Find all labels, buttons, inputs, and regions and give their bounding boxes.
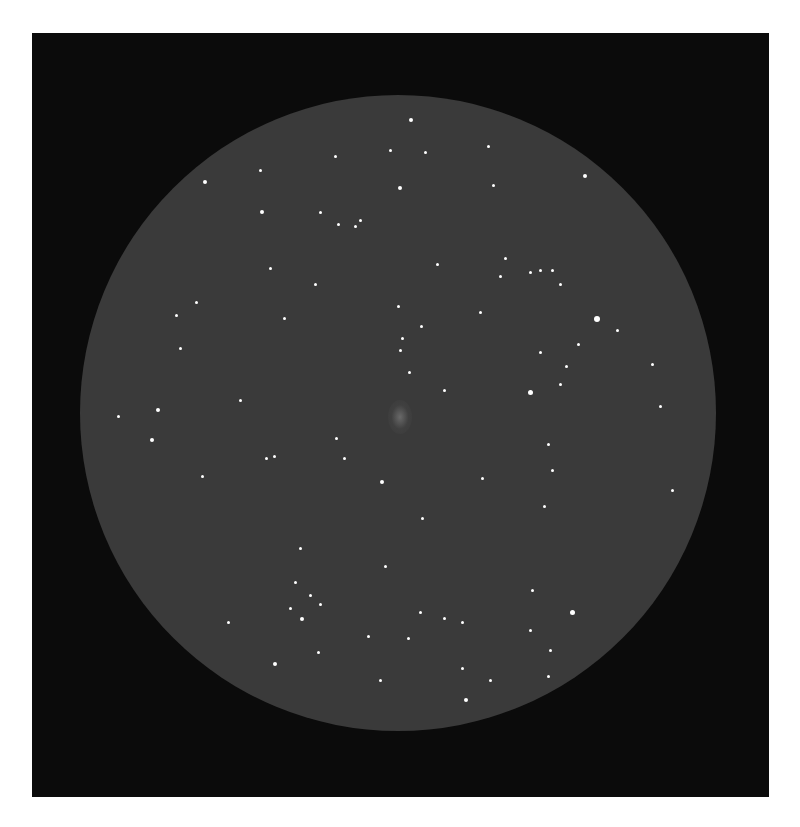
star (399, 349, 402, 352)
star (273, 662, 277, 666)
star (461, 667, 464, 670)
star (671, 489, 674, 492)
star (175, 314, 178, 317)
star (443, 617, 446, 620)
star (659, 405, 662, 408)
star (380, 480, 384, 484)
star (559, 383, 562, 386)
star (407, 637, 410, 640)
star (443, 389, 446, 392)
star (354, 225, 357, 228)
star (398, 186, 402, 190)
star (334, 155, 337, 158)
star (299, 547, 302, 550)
star (367, 635, 370, 638)
star (260, 210, 264, 214)
star (531, 589, 534, 592)
star (547, 675, 550, 678)
star (529, 629, 532, 632)
star (594, 316, 600, 322)
star (314, 283, 317, 286)
star (492, 184, 495, 187)
star (539, 351, 542, 354)
star (651, 363, 654, 366)
star (549, 649, 552, 652)
star (409, 118, 413, 122)
star (559, 283, 562, 286)
star (570, 610, 575, 615)
star (539, 269, 542, 272)
star (401, 337, 404, 340)
star (117, 415, 120, 418)
star (464, 698, 468, 702)
star (227, 621, 230, 624)
star (389, 149, 392, 152)
star (273, 455, 276, 458)
star (343, 457, 346, 460)
star (195, 301, 198, 304)
star (259, 169, 262, 172)
star (179, 347, 182, 350)
star (309, 594, 312, 597)
star (317, 651, 320, 654)
star (289, 607, 292, 610)
star (420, 325, 423, 328)
star (547, 443, 550, 446)
star (421, 517, 424, 520)
star (359, 219, 362, 222)
star (551, 469, 554, 472)
star (265, 457, 268, 460)
star (499, 275, 502, 278)
star (461, 621, 464, 624)
star (335, 437, 338, 440)
star (577, 343, 580, 346)
star (319, 211, 322, 214)
star (150, 438, 154, 442)
star (337, 223, 340, 226)
star (203, 180, 207, 184)
star (436, 263, 439, 266)
star (319, 603, 322, 606)
star (489, 679, 492, 682)
star (156, 408, 160, 412)
star (543, 505, 546, 508)
star (565, 365, 568, 368)
star (529, 271, 532, 274)
star (504, 257, 507, 260)
star (616, 329, 619, 332)
star (201, 475, 204, 478)
star (528, 390, 533, 395)
star (479, 311, 482, 314)
star (481, 477, 484, 480)
star (294, 581, 297, 584)
star (397, 305, 400, 308)
star (424, 151, 427, 154)
star (384, 565, 387, 568)
star (283, 317, 286, 320)
star (551, 269, 554, 272)
star (300, 617, 304, 621)
star (487, 145, 490, 148)
star (408, 371, 411, 374)
nebula-smudge (388, 400, 412, 434)
star (379, 679, 382, 682)
star (269, 267, 272, 270)
star (239, 399, 242, 402)
star (583, 174, 587, 178)
star (419, 611, 422, 614)
